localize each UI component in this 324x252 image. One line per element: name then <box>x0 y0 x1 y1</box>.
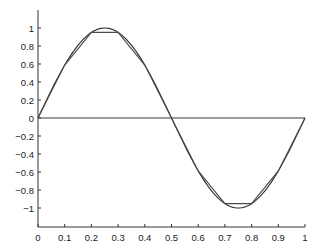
x-tick-label: 0 <box>35 232 40 243</box>
x-tick-label: 0.3 <box>111 232 124 243</box>
y-tick-label: −0.4 <box>15 149 34 160</box>
y-tick-label: 0.6 <box>21 59 34 70</box>
x-tick-label: 0.1 <box>58 232 71 243</box>
x-tick-label: 0.8 <box>245 232 258 243</box>
y-tick-label: −0.6 <box>15 167 34 178</box>
y-tick-label: −1 <box>23 203 34 214</box>
x-tick-label: 0.7 <box>218 232 231 243</box>
x-tick-label: 0.5 <box>165 232 178 243</box>
y-tick-label: 0 <box>29 113 34 124</box>
x-tick-label: 0.6 <box>192 232 205 243</box>
y-tick-label: 1 <box>29 23 34 34</box>
x-tick-label: 0.2 <box>85 232 98 243</box>
chart-canvas: 10.80.60.40.20−0.2−0.4−0.6−0.8−1 00.10.2… <box>0 0 324 252</box>
y-tick-label: −0.2 <box>15 131 34 142</box>
x-tick-label: 0.4 <box>138 232 151 243</box>
y-tick-label: −0.8 <box>15 185 34 196</box>
y-tick-label: 0.8 <box>21 41 34 52</box>
y-axis-ticks: 10.80.60.40.20−0.2−0.4−0.6−0.8−1 <box>15 23 41 214</box>
y-tick-label: 0.2 <box>21 95 34 106</box>
y-tick-label: 0.4 <box>21 77 34 88</box>
x-tick-label: 1 <box>302 232 307 243</box>
x-tick-label: 0.9 <box>272 232 285 243</box>
